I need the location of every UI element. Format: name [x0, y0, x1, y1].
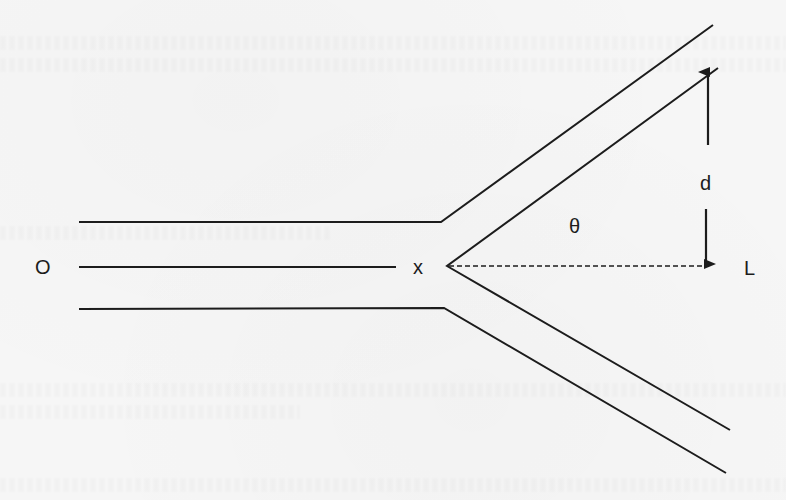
- origin-label: O: [35, 256, 51, 278]
- junction-label: x: [413, 256, 423, 278]
- inner-branch-lines: [447, 68, 730, 430]
- diagram-canvas: O x θ d L: [0, 0, 786, 500]
- separation-label: d: [700, 172, 711, 194]
- bottom-wall-line: [79, 308, 726, 473]
- top-wall-line: [79, 25, 713, 222]
- channel-junction-diagram: O x θ d L: [0, 0, 786, 500]
- angle-label: θ: [569, 215, 580, 237]
- end-label: L: [744, 257, 755, 279]
